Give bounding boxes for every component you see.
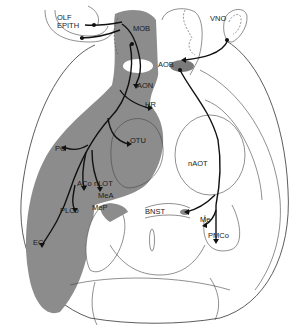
third-ventricle: [150, 229, 155, 251]
hypothalamus-outline: [110, 245, 205, 275]
synapse-dot: [130, 42, 134, 46]
synapse-dot: [92, 23, 96, 27]
pathway-vno-to-aob: [185, 40, 228, 60]
label-epith: EPITH: [57, 21, 79, 30]
pathway-to-bnst: [186, 195, 215, 212]
brainstem-right: [210, 278, 219, 320]
label-pmco: PMCo: [208, 231, 229, 240]
brainstem-outline: [70, 278, 230, 290]
nasal-contour-left: [88, 6, 99, 24]
vno-outline: [224, 9, 247, 42]
right-bulb-dashed: [183, 10, 195, 55]
mob-white-oval: [123, 59, 153, 73]
vno-inner-dashed: [229, 15, 241, 34]
label-hr: HR: [145, 100, 156, 109]
label-otu: OTU: [130, 136, 146, 145]
label-bnst: BNST: [145, 207, 165, 216]
label-mep: MeP: [92, 203, 107, 212]
olfactory-pathway-diagram: OLF EPITH MOB AON HR OTU PC ACo nLOT MeA…: [0, 0, 307, 331]
synapse-dot: [225, 38, 229, 42]
right-oval-region: [175, 115, 245, 195]
label-nlot: nLOT: [94, 179, 113, 188]
label-aob: AOB: [158, 60, 174, 69]
right-amygdala-outline: [204, 205, 240, 251]
label-me: Me: [200, 215, 210, 224]
label-mea: MeA: [98, 191, 113, 200]
synapse-dot: [178, 68, 182, 72]
label-ec: EC: [33, 238, 44, 247]
label-aon: AON: [137, 81, 153, 90]
diagram-canvas: OLF EPITH MOB AON HR OTU PC ACo nLOT MeA…: [0, 0, 307, 331]
label-aco: ACo: [77, 179, 92, 188]
label-plco: PLCo: [60, 206, 79, 215]
label-vno: VNO: [210, 14, 226, 23]
synapse-dot: [80, 36, 84, 40]
label-pc: PC: [55, 144, 66, 153]
label-mob: MOB: [133, 24, 150, 33]
pathway-aob-descending: [180, 70, 220, 205]
label-naot: nAOT: [188, 159, 208, 168]
